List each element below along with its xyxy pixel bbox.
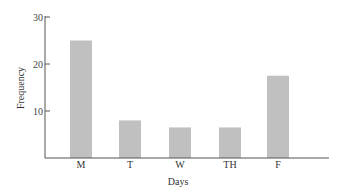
x-tick-label: T <box>127 159 133 170</box>
x-tick-label: W <box>175 159 185 170</box>
y-ticks: 102030 <box>33 12 50 117</box>
bar-chart: 102030 MTWTHF Days Frequency <box>0 0 346 195</box>
y-axis-title: Frequency <box>15 67 26 109</box>
x-tick-label: TH <box>223 159 236 170</box>
bar-m <box>70 41 92 159</box>
bar-f <box>267 76 289 158</box>
x-tick-labels: MTWTHF <box>77 159 282 170</box>
y-tick-label: 20 <box>33 59 43 70</box>
bar-t <box>119 120 141 158</box>
bar-th <box>219 127 241 158</box>
x-tick-label: F <box>275 159 281 170</box>
y-tick-label: 10 <box>33 106 43 117</box>
bar-w <box>169 127 191 158</box>
y-tick-label: 30 <box>33 12 43 23</box>
x-axis-title: Days <box>168 176 189 187</box>
bars <box>70 41 289 159</box>
x-tick-label: M <box>77 159 86 170</box>
